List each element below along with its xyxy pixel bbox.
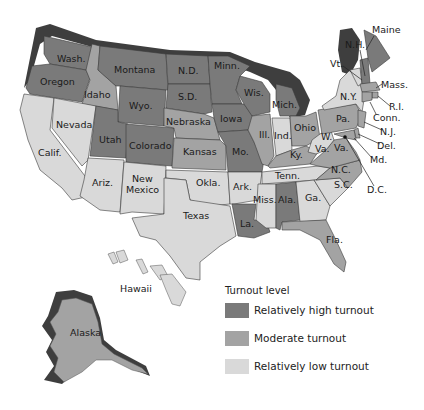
label-nd: N.D. xyxy=(178,65,198,76)
label-fla: Fla. xyxy=(326,234,343,245)
legend-item-low: Relatively low turnout xyxy=(225,357,374,375)
label-ga: Ga. xyxy=(305,192,321,203)
state-new-hampshire xyxy=(360,58,370,84)
label-mich: Mich. xyxy=(272,99,297,110)
label-wva-1: W. xyxy=(321,131,332,142)
state-florida xyxy=(282,220,346,272)
label-wyo: Wyo. xyxy=(129,100,153,111)
label-nh: N.H. xyxy=(345,39,365,50)
label-sc: S.C. xyxy=(334,179,353,190)
label-nebraska: Nebraska xyxy=(166,116,211,127)
label-ala: Ala. xyxy=(278,194,296,205)
label-va: Va. xyxy=(334,142,349,153)
swatch-high xyxy=(225,303,249,318)
label-iowa: Iowa xyxy=(220,113,242,124)
label-ariz: Ariz. xyxy=(92,177,113,188)
label-wash: Wash. xyxy=(57,53,86,64)
label-ark: Ark. xyxy=(233,181,252,192)
label-mo: Mo. xyxy=(232,146,249,157)
swatch-moderate xyxy=(225,331,249,346)
label-ri: R.I. xyxy=(389,101,404,112)
state-new-jersey xyxy=(358,110,366,128)
label-ky: Ky. xyxy=(290,149,303,160)
label-pa: Pa. xyxy=(336,113,350,124)
label-miss: Miss. xyxy=(253,194,277,205)
label-nj: N.J. xyxy=(380,126,396,137)
swatch-low xyxy=(225,359,249,374)
label-calif: Calif. xyxy=(38,147,61,158)
legend-label-moderate: Moderate turnout xyxy=(254,332,346,344)
label-kansas: Kansas xyxy=(183,146,217,157)
legend-label-high: Relatively high turnout xyxy=(254,304,374,316)
label-md: Md. xyxy=(370,154,387,165)
legend-label-low: Relatively low turnout xyxy=(254,360,369,372)
label-maine: Maine xyxy=(372,24,401,35)
state-mississippi xyxy=(256,184,276,228)
label-mass: Mass. xyxy=(381,79,408,90)
label-wva-2: Va. xyxy=(315,143,330,154)
label-nc: N.C. xyxy=(331,164,351,175)
label-utah: Utah xyxy=(99,134,122,145)
label-ind: Ind. xyxy=(274,130,292,141)
label-texas: Texas xyxy=(182,210,209,221)
label-ny: N.Y. xyxy=(340,91,357,102)
label-hawaii: Hawaii xyxy=(120,283,152,294)
label-new-mexico-1: New xyxy=(132,173,153,184)
label-la: La. xyxy=(240,218,254,229)
label-nevada: Nevada xyxy=(56,119,92,130)
label-wis: Wis. xyxy=(244,87,264,98)
label-del: Del. xyxy=(377,140,396,151)
label-dc: D.C. xyxy=(367,184,387,195)
label-ill: Ill. xyxy=(259,129,270,140)
legend-item-high: Relatively high turnout xyxy=(225,301,374,319)
label-new-mexico-2: Mexico xyxy=(126,184,159,195)
label-vt: Vt. xyxy=(330,58,343,69)
label-ohio: Ohio xyxy=(294,122,316,133)
state-connecticut xyxy=(362,92,372,102)
label-conn: Conn. xyxy=(373,112,401,123)
legend-title: Turnout level xyxy=(225,285,374,296)
label-tenn: Tenn. xyxy=(274,170,300,181)
label-okla: Okla. xyxy=(196,177,220,188)
label-sd: S.D. xyxy=(178,91,197,102)
label-oregon: Oregon xyxy=(40,76,75,87)
label-colorado: Colorado xyxy=(129,140,172,151)
state-alaska xyxy=(50,298,148,382)
label-alaska: Alaska xyxy=(70,327,101,338)
legend-item-moderate: Moderate turnout xyxy=(225,329,374,347)
label-montana: Montana xyxy=(114,64,155,75)
legend: Turnout level Relatively high turnout Mo… xyxy=(225,285,374,385)
state-rhode-island xyxy=(372,92,378,98)
label-minn: Minn. xyxy=(214,60,240,71)
label-idaho: Idaho xyxy=(84,89,111,100)
